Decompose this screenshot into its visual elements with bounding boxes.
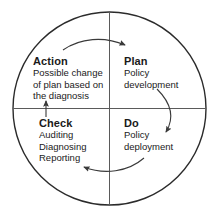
- arrow-do-to-check: [84, 158, 144, 171]
- quadrant-body-action-line-1: Possible change: [33, 67, 103, 79]
- arrow-action-to-plan: [63, 39, 125, 50]
- quadrant-label-check: Check Auditing Diagnosing Reporting: [39, 117, 87, 164]
- quadrant-body-check-line-2: Diagnosing: [39, 141, 87, 153]
- quadrant-body-do-line-2: deployment: [124, 141, 173, 153]
- pdca-diagram-canvas: [0, 0, 219, 217]
- quadrant-label-plan: Plan Policy development: [124, 55, 178, 90]
- quadrant-title-action: Action: [33, 55, 103, 67]
- pdca-cycle-diagram: Action Possible change of plan based on …: [0, 0, 219, 217]
- quadrant-body-do-line-1: Policy: [124, 129, 173, 141]
- quadrant-title-do: Do: [124, 117, 173, 129]
- quadrant-body-check-line-1: Auditing: [39, 129, 87, 141]
- quadrant-body-action-line-2: of plan based on: [33, 79, 103, 91]
- quadrant-title-check: Check: [39, 117, 87, 129]
- quadrant-body-action-line-3: the diagnosis: [33, 90, 103, 102]
- quadrant-label-do: Do Policy deployment: [124, 117, 173, 152]
- quadrant-label-action: Action Possible change of plan based on …: [33, 55, 103, 102]
- quadrant-title-plan: Plan: [124, 55, 178, 67]
- quadrant-body-plan-line-2: development: [124, 79, 178, 91]
- quadrant-body-check-line-3: Reporting: [39, 152, 87, 164]
- quadrant-body-plan-line-1: Policy: [124, 67, 178, 79]
